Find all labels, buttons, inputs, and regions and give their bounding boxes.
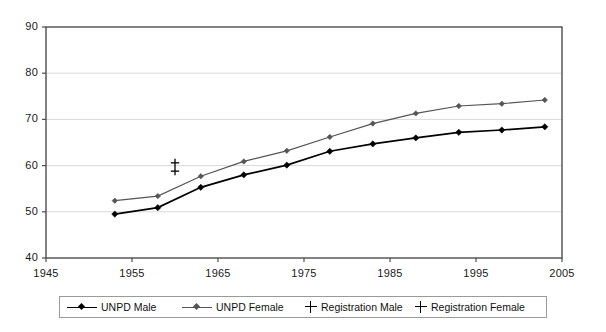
y-tick-label-90: 90 bbox=[8, 20, 38, 32]
chart-container: 405060708090 194519551965197519851995200… bbox=[0, 0, 606, 332]
x-tick-label-1945: 1945 bbox=[21, 267, 71, 279]
legend-item-label: UNPD Male bbox=[101, 302, 156, 313]
legend-plus-icon bbox=[415, 301, 427, 313]
x-tick-label-1985: 1985 bbox=[365, 267, 415, 279]
legend-item-label: UNPD Female bbox=[216, 302, 284, 313]
x-tick-label-1955: 1955 bbox=[107, 267, 157, 279]
legend-item-registration-female: Registration Female bbox=[415, 297, 525, 317]
x-tick-label-1965: 1965 bbox=[193, 267, 243, 279]
legend-item-label: Registration Male bbox=[321, 302, 403, 313]
legend-diamond-marker bbox=[193, 303, 200, 310]
legend-item-registration-male: Registration Male bbox=[305, 297, 403, 317]
data-series-layer bbox=[112, 97, 548, 217]
x-tick-label-2005: 2005 bbox=[537, 267, 587, 279]
y-tick-label-50: 50 bbox=[8, 205, 38, 217]
chart-legend: UNPD MaleUNPD FemaleRegistration MaleReg… bbox=[59, 296, 547, 318]
y-tick-label-40: 40 bbox=[8, 251, 38, 263]
legend-line-diamond-icon bbox=[67, 302, 97, 312]
y-tick-label-80: 80 bbox=[8, 66, 38, 78]
x-tick-label-1995: 1995 bbox=[451, 267, 501, 279]
plot-frame bbox=[46, 27, 562, 258]
legend-diamond-marker bbox=[78, 303, 85, 310]
legend-plus-icon bbox=[305, 301, 317, 313]
y-tick-label-70: 70 bbox=[8, 112, 38, 124]
legend-item-unpd-male: UNPD Male bbox=[67, 297, 156, 317]
legend-item-unpd-female: UNPD Female bbox=[182, 297, 284, 317]
y-tick-label-60: 60 bbox=[8, 159, 38, 171]
series-registration-male bbox=[171, 167, 179, 175]
gridlines bbox=[46, 73, 562, 212]
x-tick-label-1975: 1975 bbox=[279, 267, 329, 279]
chart-plot-area bbox=[0, 0, 606, 332]
legend-item-label: Registration Female bbox=[431, 302, 525, 313]
legend-line-diamond-icon bbox=[182, 302, 212, 312]
